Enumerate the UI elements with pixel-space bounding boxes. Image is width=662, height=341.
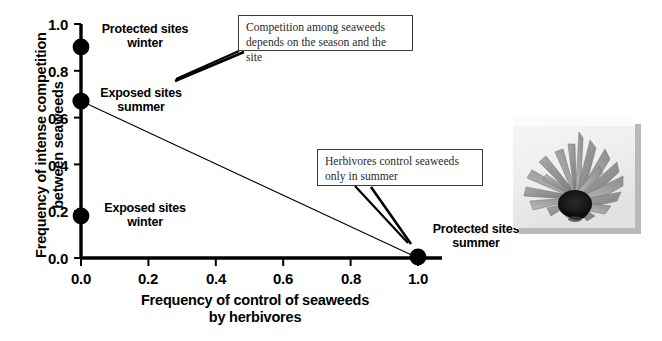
y-axis-title: Frequency of intense competition between…	[33, 5, 67, 285]
leader-lines-competition	[175, 51, 244, 81]
point-label-exposed-sites-winter: Exposed sites winter	[90, 201, 200, 229]
x-axis-title: Frequency of control of seaweeds by herb…	[60, 292, 450, 326]
x-tick-label-0_8: 0.8	[328, 270, 374, 287]
point-label-exposed-sites-summer: Exposed sites summer	[86, 86, 196, 114]
seaweed-photo-image	[513, 118, 635, 228]
x-tick-label-1_0: 1.0	[395, 270, 441, 287]
x-tick-label-0_4: 0.4	[193, 270, 239, 287]
callout-competition: Competition among seaweeds depends on th…	[238, 15, 413, 51]
seaweed-photo	[513, 118, 635, 228]
x-tick-label-0_2: 0.2	[125, 270, 171, 287]
point-label-protected-sites-winter: Protected sites winter	[86, 22, 204, 50]
data-point-protected-summer	[410, 249, 427, 266]
data-point-exposed-winter	[73, 208, 90, 225]
leader-lines-herbivores	[355, 186, 411, 244]
figure-root: 1.0 0.8 0.6 0.4 0.2 0.0 0.0 0.2 0.4 0.6 …	[0, 0, 662, 341]
x-tick-label-0_6: 0.6	[260, 270, 306, 287]
callout-herbivores: Herbivores control seaweeds only in summ…	[317, 149, 483, 186]
